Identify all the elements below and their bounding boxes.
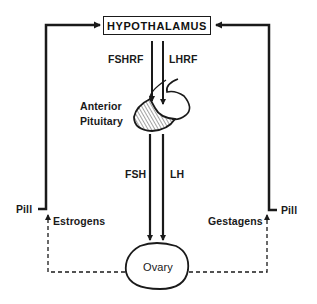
estrogens-label: Estrogens [53,215,105,227]
fsh-label: FSH [125,168,146,180]
hypothalamus-label: HYPOTHALAMUS [107,20,207,32]
pituitary-gland [134,79,190,131]
hypothalamus-node: HYPOTHALAMUS [103,16,211,35]
diagram-canvas [0,0,317,304]
pill-right-pathway [216,25,277,210]
lh-label: LH [170,168,184,180]
gestagens-label: Gestagens [208,215,263,227]
anterior-pituitary-label-line1: Anterior [80,100,122,112]
fshrf-label: FSHRF [108,53,144,65]
ovary-label: Ovary [143,261,173,273]
anterior-pituitary-label-line2: Pituitary [80,115,123,127]
pill-right-label: Pill [281,204,297,216]
pill-left-label: Pill [16,203,32,215]
lhrf-label: LHRF [169,53,197,65]
